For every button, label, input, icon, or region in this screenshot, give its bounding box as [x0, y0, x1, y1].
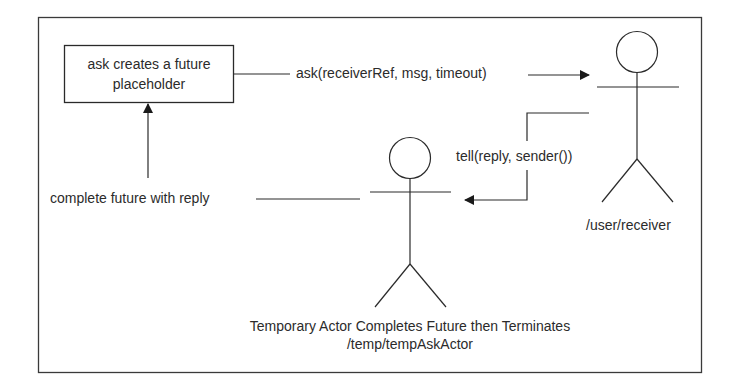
temporary-actor-title: Temporary Actor Completes Future then Te… [200, 318, 620, 335]
receiver-actor-icon [597, 32, 679, 203]
temporary-actor-path: /temp/tempAskActor [200, 336, 620, 353]
future-placeholder-label: ask creates a future placeholder [64, 45, 234, 103]
receiver-actor-label: /user/receiver [586, 217, 671, 234]
temporary-actor-icon [370, 138, 451, 308]
tell-message-label: tell(reply, sender()) [456, 148, 572, 165]
tell-arrow [465, 170, 527, 200]
complete-future-label: complete future with reply [50, 190, 210, 207]
ask-message-label: ask(receiverRef, msg, timeout) [296, 65, 487, 82]
future-box-line2: placeholder [113, 74, 185, 94]
tell-connector-line [527, 113, 589, 141]
future-box-line1: ask creates a future [88, 54, 211, 74]
